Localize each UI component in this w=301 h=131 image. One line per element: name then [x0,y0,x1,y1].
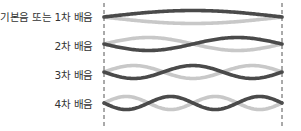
harmonic-1-light-wave [104,17,282,24]
standing-wave-diagram [0,0,301,131]
standing-waves [104,11,282,110]
harmonic-3-dark-wave [104,66,282,79]
harmonic-3-light-wave [104,66,282,79]
harmonic-1-dark-wave [104,11,282,18]
